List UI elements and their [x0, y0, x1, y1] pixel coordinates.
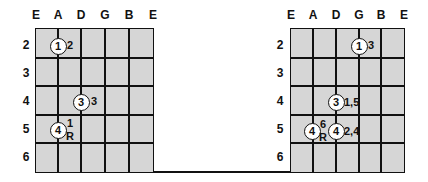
- string-label: A: [305, 8, 321, 22]
- fret-label: 2: [273, 38, 287, 52]
- string-label: E: [283, 8, 299, 22]
- fret-line: [290, 57, 405, 59]
- finger-marker: 1: [351, 38, 368, 55]
- string-label: E: [396, 8, 412, 22]
- fret-line: [35, 114, 154, 116]
- fret-label: 6: [273, 150, 287, 164]
- string-line: [380, 28, 382, 173]
- string-line: [312, 28, 314, 173]
- fret-line: [35, 85, 154, 87]
- interval-label: 3: [368, 39, 374, 51]
- interval-label: 1,5: [344, 96, 359, 108]
- interval-label: 2,4: [344, 125, 359, 137]
- fret-label: 2: [19, 38, 33, 52]
- string-label: A: [50, 8, 66, 22]
- finger-marker: 4: [50, 122, 67, 139]
- string-line: [104, 28, 106, 173]
- fret-label: 5: [273, 122, 287, 136]
- interval-label: 1: [67, 117, 73, 129]
- string-label: B: [373, 8, 389, 22]
- string-label: E: [28, 8, 44, 22]
- fret-label: 5: [19, 122, 33, 136]
- finger-marker: 3: [73, 94, 90, 111]
- string-label: D: [73, 8, 89, 22]
- fret-label: 3: [273, 66, 287, 80]
- string-label: B: [121, 8, 137, 22]
- fret-label: 4: [19, 94, 33, 108]
- connector-line: [153, 171, 291, 173]
- finger-marker: 4: [304, 123, 321, 140]
- string-label: G: [351, 8, 367, 22]
- root-label: R: [319, 131, 327, 143]
- interval-label: 6: [320, 118, 326, 130]
- interval-label: 2: [67, 39, 73, 51]
- fret-line: [290, 114, 405, 116]
- string-label: G: [97, 8, 113, 22]
- fret-label: 4: [273, 94, 287, 108]
- string-label: E: [145, 8, 161, 22]
- fret-line: [35, 142, 154, 144]
- interval-label: 3: [91, 95, 97, 107]
- fret-label: 6: [19, 150, 33, 164]
- finger-marker: 3: [328, 94, 345, 111]
- fret-line: [290, 142, 405, 144]
- string-label: D: [328, 8, 344, 22]
- string-line: [128, 28, 130, 173]
- fret-line: [290, 85, 405, 87]
- finger-marker: 1: [50, 38, 67, 55]
- fret-line: [35, 57, 154, 59]
- root-label: R: [66, 130, 74, 142]
- fret-label: 3: [19, 66, 33, 80]
- finger-marker: 4: [328, 123, 345, 140]
